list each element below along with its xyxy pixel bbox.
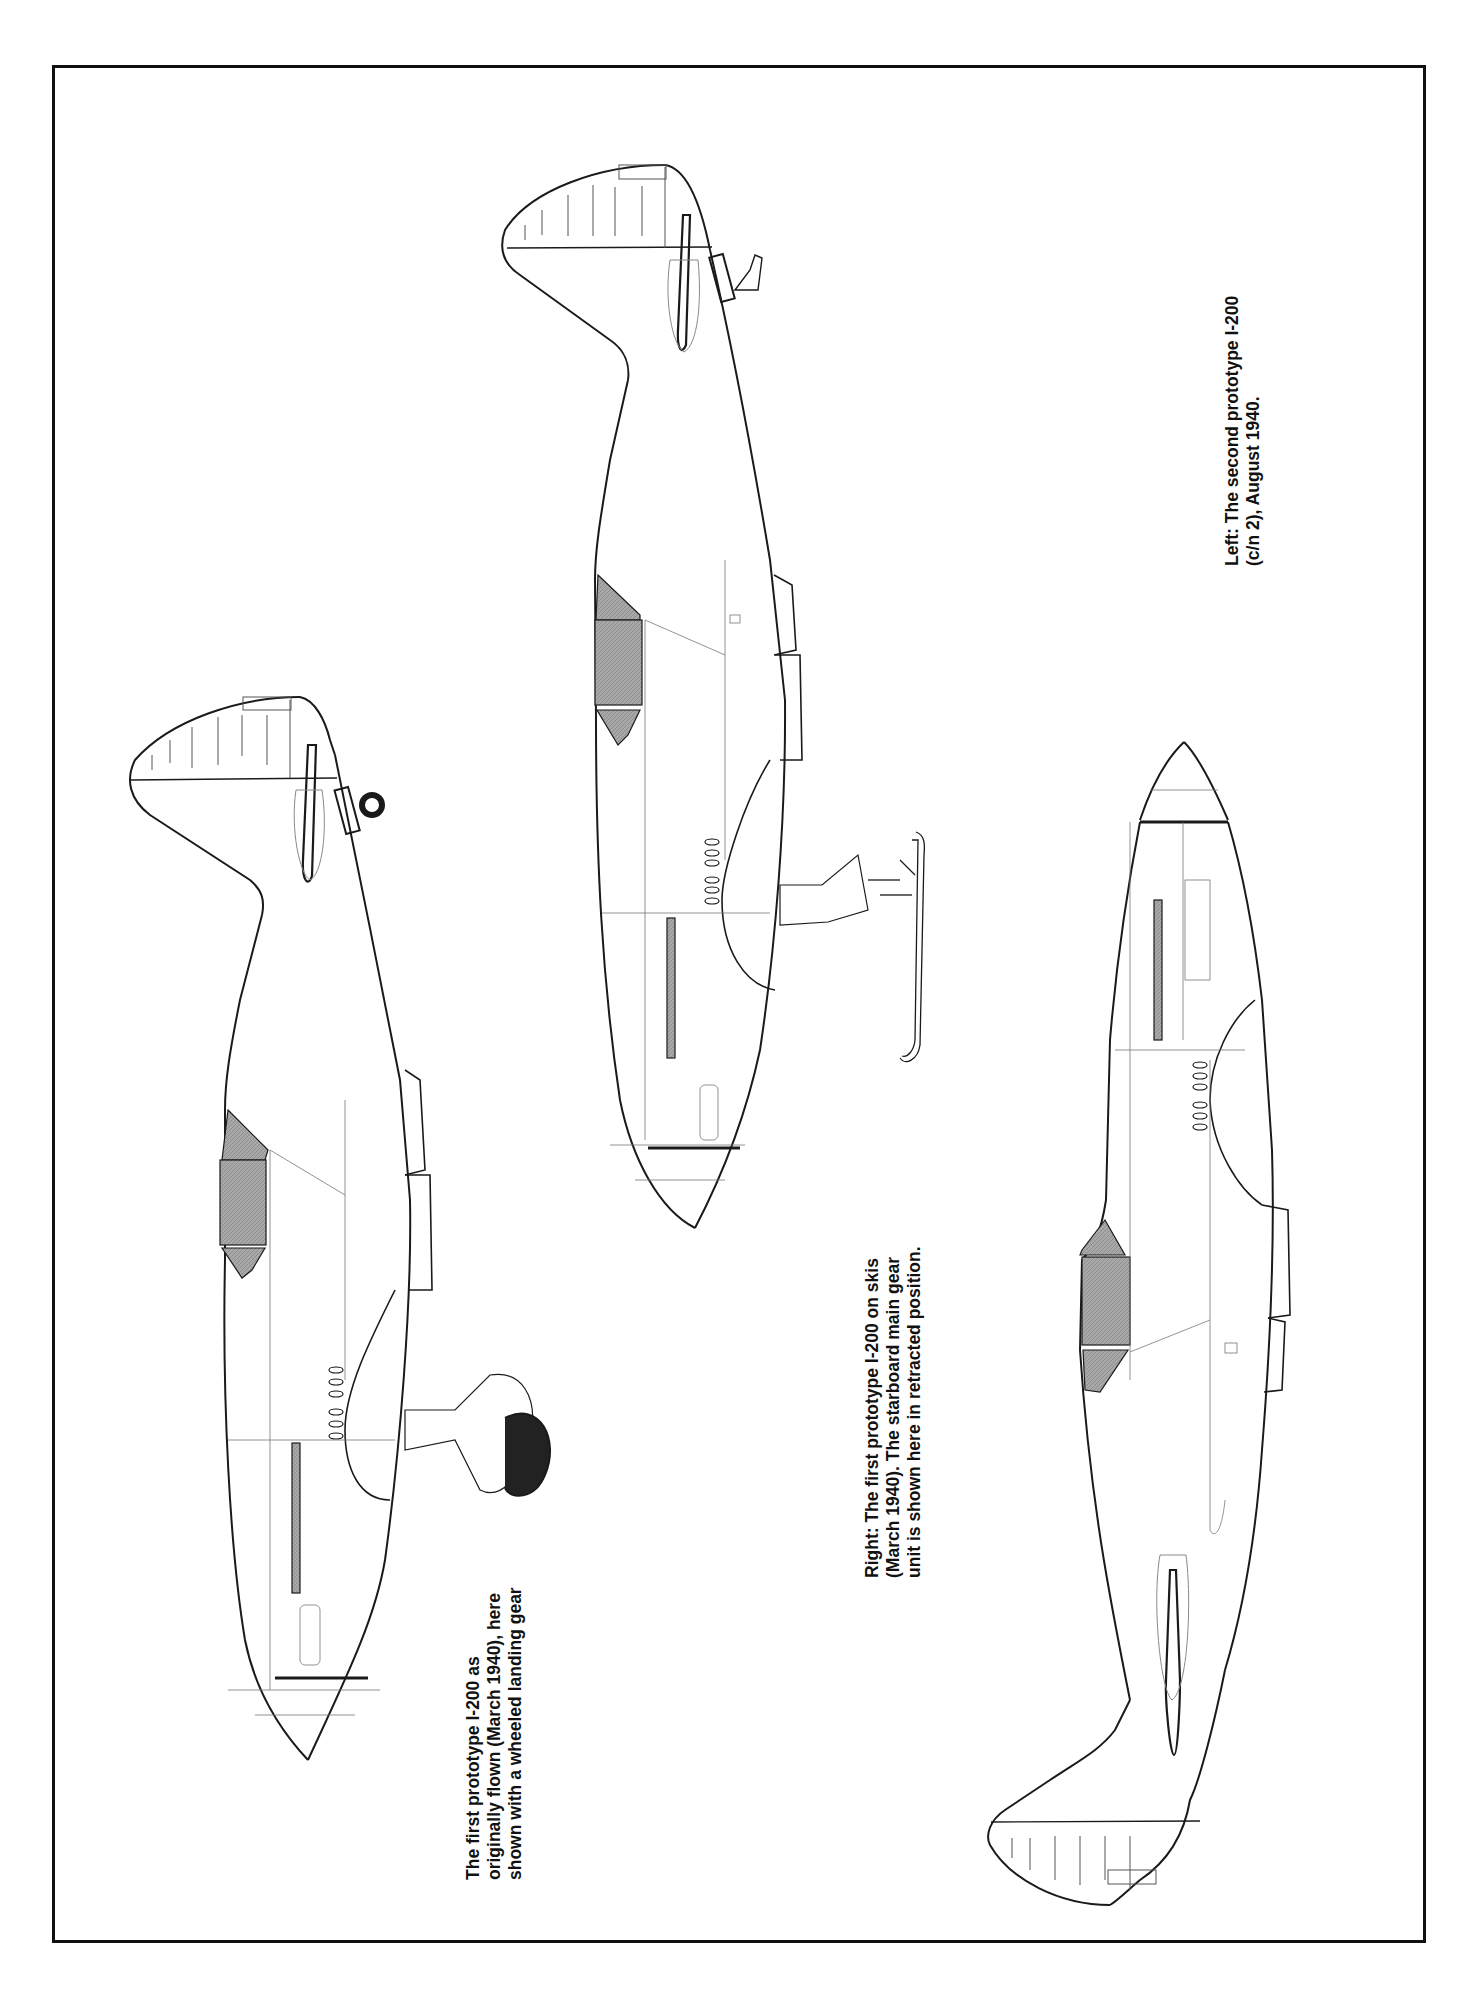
caption-line: unit is shown here in retracted position… [904,1246,925,1578]
caption-line: (March 1940). The starboard main gear [883,1246,904,1578]
caption-line: shown with a wheeled landing gear [505,1587,526,1880]
caption-line: Left: The second prototype I-200 [1222,296,1243,566]
left-tail-fin [130,697,300,915]
caption-left-aircraft: The first prototype I-200 as originally … [463,1587,526,1880]
caption-center-aircraft: Right: The first prototype I-200 on skis… [862,1246,925,1578]
caption-right-aircraft: Left: The second prototype I-200 (c/n 2)… [1222,296,1264,566]
center-tail-fin [502,165,665,380]
caption-line: Right: The first prototype I-200 on skis [862,1246,883,1578]
center-aircraft-skis [502,165,924,1228]
caption-line: originally flown (March 1940), here [484,1587,505,1880]
caption-line: The first prototype I-200 as [463,1587,484,1880]
caption-line: (c/n 2), August 1940. [1243,296,1264,566]
right-aircraft-second-prototype [988,742,1290,1905]
